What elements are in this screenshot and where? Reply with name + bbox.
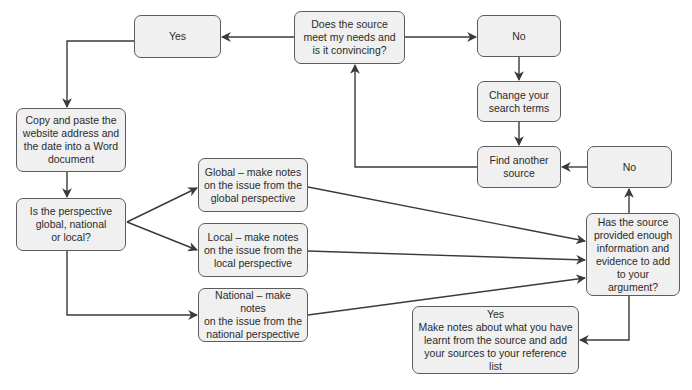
edge-perspective-to-global [127, 188, 197, 222]
edge-enough-info-to-yes-notes [580, 296, 629, 340]
node-yes-notes: Yes Make notes about what you have learn… [412, 306, 579, 374]
node-find-another: Find another source [477, 146, 561, 188]
edge-local-to-enough-info [308, 251, 585, 260]
edge-perspective-to-local [127, 222, 197, 250]
node-no-top: No [477, 15, 561, 57]
node-local: Local – make notes on the issue from the… [198, 223, 308, 277]
node-change-terms: Change your search terms [477, 81, 561, 122]
edge-global-to-enough-info [308, 187, 585, 241]
edge-yes-top-to-copy-paste [67, 41, 134, 107]
node-meet-needs: Does the source meet my needs and is it … [294, 11, 405, 64]
node-global: Global – make notes on the issue from th… [198, 158, 308, 212]
node-enough-info: Has the source provided enough informati… [586, 213, 680, 296]
edge-perspective-to-national [67, 251, 197, 315]
node-national: National – make notes on the issue from … [198, 288, 308, 342]
edge-find-another-to-meet-needs [355, 65, 477, 167]
node-perspective: Is the perspective global, national or l… [16, 198, 126, 251]
node-yes-top: Yes [134, 15, 221, 58]
node-no-right: No [587, 146, 672, 188]
node-copy-paste: Copy and paste the website address and t… [16, 108, 126, 172]
